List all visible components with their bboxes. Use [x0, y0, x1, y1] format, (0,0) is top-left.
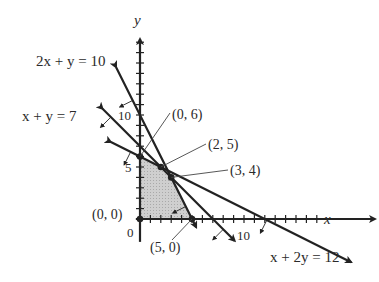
vertex-point — [137, 216, 144, 223]
graph-canvas: y x 0 10 5 10 2x + y = 10 x + y = 7 x + … — [0, 0, 379, 282]
y-axis-label: y — [132, 12, 141, 28]
y-tick-label-5: 5 — [125, 160, 132, 175]
vertex-label-0-0: (0, 0) — [92, 207, 123, 223]
x-axis-label: x — [323, 211, 331, 227]
equation-label-x-plus-2y: x + 2y = 12 — [270, 249, 339, 265]
lp-graph-figure: y x 0 10 5 10 2x + y = 10 x + y = 7 x + … — [0, 0, 379, 282]
leader-line — [161, 144, 206, 167]
leader-line — [171, 170, 228, 177]
equation-label-2x-plus-y: 2x + y = 10 — [36, 53, 105, 69]
y-tick-label-10: 10 — [118, 108, 131, 123]
half-plane-arrow — [101, 117, 111, 127]
half-plane-arrow — [260, 220, 267, 233]
half-plane-arrow — [120, 100, 133, 107]
vertex-label-3-4: (3, 4) — [230, 163, 261, 179]
vertex-label-0-6: (0, 6) — [172, 107, 203, 123]
vertex-label-5-0: (5, 0) — [150, 240, 181, 256]
x-tick-label-10: 10 — [237, 228, 250, 243]
leader-line — [140, 113, 170, 157]
constraint-line-c2 — [103, 109, 235, 241]
vertex-label-2-5: (2, 5) — [208, 137, 239, 153]
origin-label: 0 — [127, 225, 134, 240]
constraint-lines — [101, 67, 352, 262]
equation-label-x-plus-y: x + y = 7 — [22, 108, 77, 124]
half-plane-arrow — [213, 229, 223, 239]
